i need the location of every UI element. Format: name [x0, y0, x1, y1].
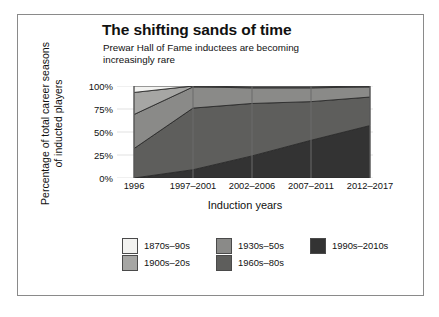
y-tick-label: 100% [73, 81, 113, 92]
legend-label: 1870s–90s [144, 240, 190, 251]
legend-column: 1990s–2010s [310, 237, 388, 254]
figure-panel: The shifting sands of time Prewar Hall o… [17, 14, 424, 296]
y-tick-label: 50% [73, 127, 113, 138]
legend-swatch-1930s-50s [216, 238, 232, 254]
y-tick-label: 25% [73, 150, 113, 161]
legend-item: 1900s–20s [122, 254, 190, 271]
legend-label: 1900s–20s [144, 257, 190, 268]
legend-item: 1960s–80s [216, 254, 284, 271]
x-axis-tick-labels: 1996 1997–2001 2002–2006 2007–2011 2012–… [117, 181, 373, 195]
x-axis-title: Induction years [117, 199, 373, 211]
chart-subtitle: Prewar Hall of Fame inductees are becomi… [103, 42, 353, 65]
legend-swatch-1870s-90s [122, 238, 138, 254]
legend-item: 1870s–90s [122, 237, 190, 254]
legend-label: 1930s–50s [238, 240, 284, 251]
legend-item: 1930s–50s [216, 237, 284, 254]
stacked-area-plot [117, 86, 373, 178]
y-axis-tick-labels: 100% 75% 50% 25% 0% [73, 15, 113, 297]
x-tick-label: 2007–2011 [288, 181, 334, 191]
y-tick-label: 75% [73, 104, 113, 115]
legend-label: 1990s–2010s [332, 240, 388, 251]
x-tick-label: 2012–2017 [347, 181, 394, 191]
x-tick-label: 2002–2006 [229, 181, 276, 191]
legend-swatch-1900s-20s [122, 255, 138, 271]
legend-column: 1870s–90s 1900s–20s [122, 237, 190, 271]
y-tick-label: 0% [73, 173, 113, 184]
legend-swatch-1990s-2010s [310, 238, 326, 254]
legend-swatch-1960s-80s [216, 255, 232, 271]
legend-item: 1990s–2010s [310, 237, 388, 254]
x-tick-label: 1997–2001 [170, 181, 217, 191]
plot-svg [117, 86, 373, 178]
y-axis-title: Percentage of total career seasons of in… [39, 29, 64, 219]
legend-label: 1960s–80s [238, 257, 284, 268]
chart-title: The shifting sands of time [102, 21, 291, 39]
legend-column: 1930s–50s 1960s–80s [216, 237, 284, 271]
x-tick-label: 1996 [124, 181, 145, 191]
